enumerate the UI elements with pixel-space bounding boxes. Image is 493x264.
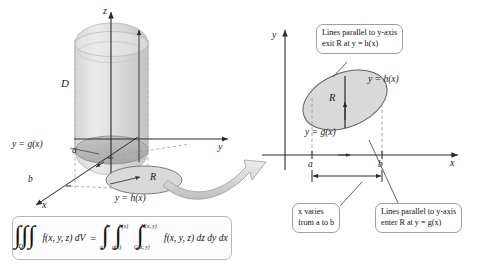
equals-sign: = [87, 233, 99, 244]
outer-upper-limit: b [106, 223, 109, 229]
callout-exit-line2: exit R at y = h(x) [322, 39, 397, 50]
y-axis-label-2d: y [272, 30, 276, 40]
rhs-integrand: f(x, y, z) dz dy dx [162, 233, 230, 243]
callout-exit-region: Lines parallel to y-axis exit R at y = h… [316, 24, 403, 54]
middle-integral: ∫ h(x) g(x) [112, 225, 134, 251]
region-R-label-2d: R [329, 93, 335, 104]
inner-lower-limit: G(x, y) [134, 244, 150, 250]
lhs-subscript-D: D [18, 242, 22, 249]
callout-enter-line1: Lines parallel to y-axis [381, 207, 456, 218]
curve-h-label-2d: y = h(x) [368, 75, 399, 85]
callout-enter-line2: enter R at y = g(x) [381, 218, 456, 229]
middle-lower-limit: g(x) [112, 244, 121, 250]
callout-xrange-line2: from a to b [298, 218, 334, 229]
triple-integral-formula-box: ∫ ∫ ∫ D f(x, y, z) dV = ∫ b a ∫ h(x) [12, 216, 232, 260]
outer-lower-limit: a [100, 244, 103, 250]
inner-integral: ∫ H(x, y) G(x, y) [134, 225, 162, 251]
x-range-measure [312, 170, 382, 182]
callout-exit-line1: Lines parallel to y-axis [322, 28, 397, 39]
lhs-integrand: f(x, y, z) dV [40, 233, 87, 243]
tick-b-label-2d: b [378, 160, 383, 170]
tick-a-label-2d: a [308, 160, 313, 170]
outer-integral: ∫ b a [99, 225, 112, 251]
middle-upper-limit: h(x) [119, 223, 128, 229]
callout-x-varies: x varies from a to b [292, 203, 340, 233]
inner-upper-limit: H(x, y) [141, 223, 157, 229]
figure-canvas: z D y x y = g(x) y = h(x) a b R [0, 0, 493, 264]
callout-enter-region: Lines parallel to y-axis enter R at y = … [375, 203, 462, 233]
x-axis-label-2d: x [450, 158, 454, 168]
lhs-triple-integral: ∫ ∫ ∫ D [14, 225, 40, 251]
callout-xrange-line1: x varies [298, 207, 334, 218]
curve-g-label-2d: y = g(x) [305, 128, 336, 138]
